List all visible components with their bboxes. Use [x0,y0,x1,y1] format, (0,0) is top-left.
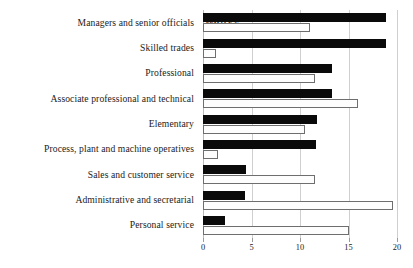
bar-male [203,13,386,22]
category-label: Administrative and secretarial [0,195,194,205]
x-tick-label: 0 [191,243,215,252]
category-label: Skilled trades [0,43,194,53]
bar-female [203,201,393,210]
category-label: Elementary [0,119,194,129]
category-label: Managers and senior officials [0,18,194,28]
x-tick-label: 20 [385,243,409,252]
bar-female [203,226,349,235]
x-tick-label: 15 [337,243,361,252]
bar-female [203,74,315,83]
bar-female [203,150,218,159]
x-tick-mark [300,238,301,242]
bars-layer: MALE % FEMALE % [203,10,397,238]
x-tick-mark [349,238,350,242]
x-axis: 05101520 [203,238,397,262]
bar-male [203,115,317,124]
bar-female [203,23,310,32]
category-label: Associate professional and technical [0,94,194,104]
x-tick-label: 10 [288,243,312,252]
category-axis-labels: Managers and senior officialsSkilled tra… [0,10,194,238]
gridline-20 [397,10,398,238]
bar-male [203,191,245,200]
category-label: Sales and customer service [0,170,194,180]
x-tick-label: 5 [240,243,264,252]
plot-area: MALE % FEMALE % [203,10,397,238]
x-tick-mark [397,238,398,242]
bar-female [203,49,216,58]
bar-male [203,165,246,174]
bar-male [203,64,332,73]
bar-male [203,39,386,48]
category-label: Professional [0,68,194,78]
bar-female [203,125,305,134]
bar-male [203,140,316,149]
bar-male [203,216,225,225]
x-tick-mark [203,238,204,242]
category-label: Personal service [0,220,194,230]
bar-male [203,89,332,98]
bar-female [203,175,315,184]
x-tick-mark [252,238,253,242]
horizontal-bar-chart: Managers and senior officialsSkilled tra… [0,0,413,268]
category-label: Process, plant and machine operatives [0,144,194,154]
bar-female [203,99,358,108]
